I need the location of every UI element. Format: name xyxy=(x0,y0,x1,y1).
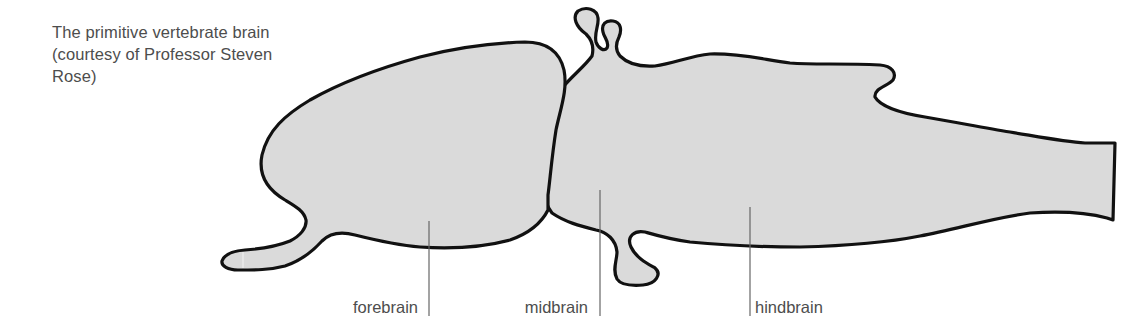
midbrain-label: midbrain xyxy=(500,297,588,317)
brain-diagram xyxy=(0,0,1132,336)
midbrain-hindbrain-shape xyxy=(544,9,1115,286)
hindbrain-label: hindbrain xyxy=(755,297,823,317)
forebrain-label: forebrain xyxy=(330,297,418,317)
forebrain-shape xyxy=(222,42,565,270)
